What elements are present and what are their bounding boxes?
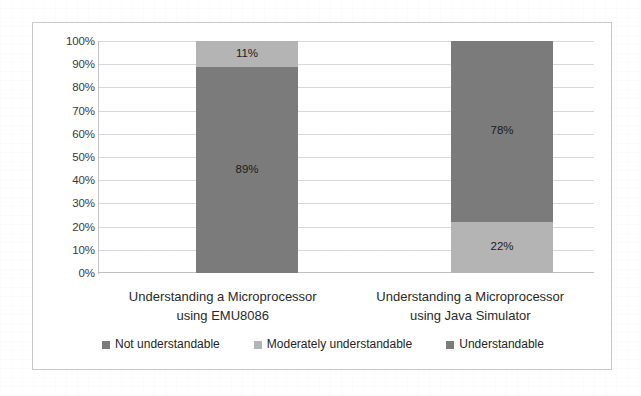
category-label-emu8086: Understanding a Microprocessor using EMU… bbox=[99, 285, 347, 333]
legend-label: Not understandable bbox=[115, 338, 220, 351]
legend-swatch-icon bbox=[446, 341, 454, 349]
bar-segment-label: 89% bbox=[235, 163, 258, 175]
y-tick-0: 0% bbox=[41, 268, 95, 279]
y-tick-100: 100% bbox=[41, 36, 95, 47]
bar-segment-label: 11% bbox=[236, 47, 258, 59]
x-axis-category-labels: Understanding a Microprocessor using EMU… bbox=[99, 285, 594, 333]
bar-segment-not-understandable[interactable]: 89% bbox=[196, 67, 298, 273]
scan-ghost-text bbox=[20, 380, 24, 396]
y-axis: 100% 90% 80% 70% 60% 50% 40% 30% 20% 10%… bbox=[41, 23, 95, 281]
legend-swatch-icon bbox=[254, 341, 262, 349]
category-label-line2: using Java Simulator bbox=[347, 306, 595, 325]
category-label-line1: Understanding a Microprocessor bbox=[129, 289, 317, 304]
y-tick-90: 90% bbox=[41, 59, 95, 70]
y-tick-30: 30% bbox=[41, 198, 95, 209]
legend-swatch-icon bbox=[102, 341, 110, 349]
y-tick-20: 20% bbox=[41, 221, 95, 232]
bar-segment-label: 22% bbox=[490, 240, 513, 252]
y-tick-10: 10% bbox=[41, 244, 95, 255]
bar-segment-moderately-understandable[interactable]: 22% bbox=[451, 222, 553, 273]
bar-segment-understandable[interactable]: 78% bbox=[451, 41, 553, 222]
legend-item-not-understandable[interactable]: Not understandable bbox=[102, 338, 220, 351]
bar-java-simulator[interactable]: 78% 22% bbox=[451, 41, 553, 273]
legend-label: Understandable bbox=[459, 338, 544, 351]
y-tick-80: 80% bbox=[41, 82, 95, 93]
legend-label: Moderately understandable bbox=[267, 338, 412, 351]
category-label-line2: using EMU8086 bbox=[99, 306, 347, 325]
category-label-java-simulator: Understanding a Microprocessor using Jav… bbox=[347, 285, 595, 333]
bar-segment-moderately-understandable[interactable]: 11% bbox=[196, 41, 298, 67]
y-tick-70: 70% bbox=[41, 105, 95, 116]
chart-container: 100% 90% 80% 70% 60% 50% 40% 30% 20% 10%… bbox=[32, 22, 612, 370]
y-tick-50: 50% bbox=[41, 152, 95, 163]
plot-region: 100% 90% 80% 70% 60% 50% 40% 30% 20% 10%… bbox=[33, 23, 613, 281]
legend-item-moderately-understandable[interactable]: Moderately understandable bbox=[254, 338, 412, 351]
bar-segment-label: 78% bbox=[490, 124, 513, 136]
plot-area: 11% 89% 78% 22% bbox=[99, 41, 594, 273]
y-tick-40: 40% bbox=[41, 175, 95, 186]
bar-emu8086[interactable]: 11% 89% bbox=[196, 41, 298, 273]
chart-legend: Not understandable Moderately understand… bbox=[33, 338, 613, 351]
category-label-line1: Understanding a Microprocessor bbox=[376, 289, 564, 304]
legend-item-understandable[interactable]: Understandable bbox=[446, 338, 544, 351]
y-tick-60: 60% bbox=[41, 128, 95, 139]
